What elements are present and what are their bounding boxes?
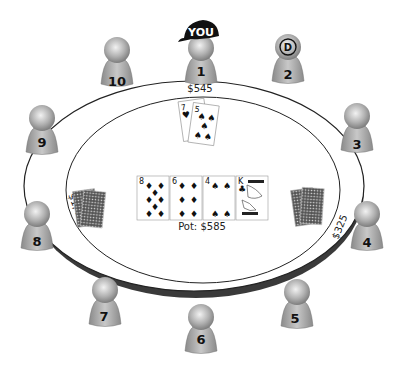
board-card-1: 8 ♦♦ ♦ ♦♦ ♦ ♦♦ <box>137 176 169 220</box>
svg-text:♦: ♦ <box>178 209 186 219</box>
seat-8-face-down-cards <box>73 189 106 228</box>
svg-text:♣: ♣ <box>238 184 246 194</box>
svg-text:4: 4 <box>205 177 210 186</box>
seat-2[interactable]: 2 D <box>272 34 304 84</box>
board-card-4: K ♣ <box>236 176 268 220</box>
svg-text:♠: ♠ <box>203 131 212 142</box>
seat-4[interactable]: 4 <box>351 201 383 251</box>
seat-5[interactable]: 5 <box>281 279 313 329</box>
svg-text:♠: ♠ <box>223 181 231 191</box>
svg-text:♦: ♦ <box>178 195 186 205</box>
seat-number: 9 <box>37 135 46 150</box>
seat-number: 1 <box>196 64 205 79</box>
seat-3[interactable]: 3 <box>341 103 373 153</box>
svg-text:YOU: YOU <box>187 26 214 39</box>
seat-4-face-down-cards <box>291 187 325 226</box>
svg-text:♥: ♥ <box>181 109 190 120</box>
board-card-2: 6 ♦♦ ♦♦ ♦♦ <box>170 176 202 220</box>
hero-hole-cards: 7 ♥ 5 ♠ ♠ ♠ ♠ ♠ <box>178 98 219 145</box>
svg-text:♦: ♦ <box>145 209 153 219</box>
poker-table-scene: 10 9 3 8 4 7 5 6 2 D 1 YOU $545 $1,425 $… <box>0 0 405 368</box>
seat-number: 5 <box>290 311 299 326</box>
svg-text:♠: ♠ <box>223 209 231 219</box>
svg-text:♦: ♦ <box>190 195 198 205</box>
hole-card-2: 5 ♠ ♠ ♠ ♠ ♠ <box>188 102 219 145</box>
seat-10[interactable]: 10 <box>101 37 133 89</box>
seat-number: 6 <box>196 332 205 347</box>
svg-text:♠: ♠ <box>211 209 219 219</box>
svg-text:♦: ♦ <box>178 181 186 191</box>
pot-label: Pot: $585 <box>178 221 226 232</box>
svg-text:♦: ♦ <box>190 209 198 219</box>
hero-stack: $545 <box>187 83 212 94</box>
svg-text:♠: ♠ <box>211 181 219 191</box>
seat-number: 3 <box>352 137 361 152</box>
svg-text:6: 6 <box>172 177 177 186</box>
seat-number: 2 <box>283 67 292 82</box>
seat-number: 10 <box>108 74 126 89</box>
seat-number: 7 <box>99 309 108 324</box>
svg-text:♠: ♠ <box>193 130 202 141</box>
seat-1-hero[interactable]: 1 YOU <box>178 20 219 85</box>
seat-7[interactable]: 7 <box>89 277 121 327</box>
seat-number: 4 <box>362 235 371 250</box>
svg-text:♦: ♦ <box>190 181 198 191</box>
seat-number: 8 <box>32 234 41 249</box>
seat-6[interactable]: 6 <box>185 304 217 354</box>
board-card-3: 4 ♠♠ ♠♠ <box>203 176 235 220</box>
svg-text:8: 8 <box>139 177 144 186</box>
svg-text:D: D <box>284 42 292 53</box>
svg-text:♦: ♦ <box>157 209 165 219</box>
you-cap-icon: YOU <box>178 20 219 42</box>
